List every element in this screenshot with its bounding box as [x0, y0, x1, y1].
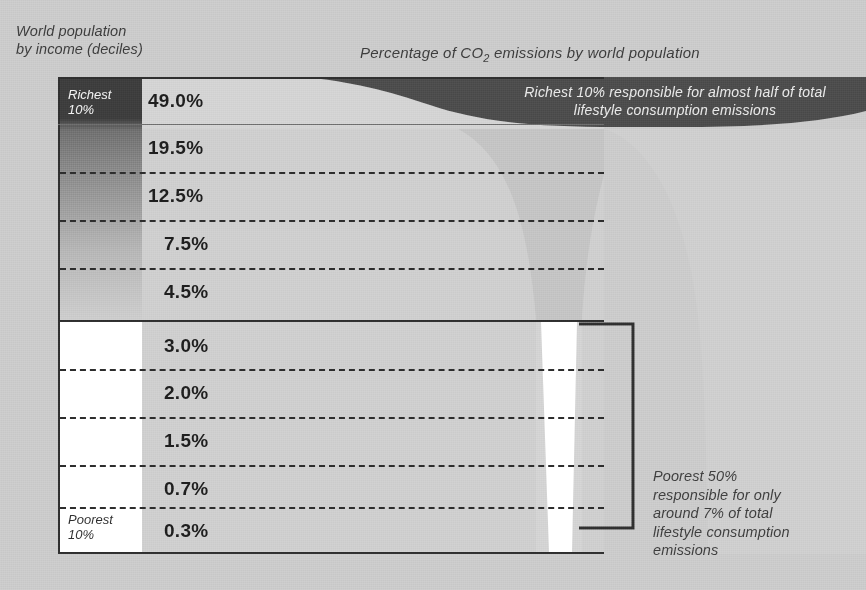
value-label: 7.5% — [164, 233, 209, 255]
value-label: 12.5% — [148, 185, 203, 207]
poorest-bracket — [577, 322, 635, 530]
table-row: 12.5% — [142, 172, 604, 219]
row-separator — [60, 220, 604, 222]
table-row: 2.0% — [142, 369, 604, 416]
value-label: 4.5% — [164, 281, 209, 303]
value-label: 0.3% — [164, 520, 209, 542]
decile-gradient-column: Richest 10% Poorest 10% — [60, 77, 142, 554]
value-label: 3.0% — [164, 335, 209, 357]
value-label: 1.5% — [164, 430, 209, 452]
left-axis-label: World population by income (deciles) — [16, 22, 143, 58]
table-row: 3.0% — [142, 322, 604, 369]
funnel-chart: Richest 10% responsible for almost half … — [58, 77, 866, 554]
value-column: 49.0% 19.5% 12.5% 7.5% 4.5% 3.0% 2.0% 1.… — [142, 77, 604, 554]
value-label: 0.7% — [164, 478, 209, 500]
table-row: 0.7% — [142, 465, 604, 512]
value-label: 19.5% — [148, 137, 203, 159]
richest-decile-tag: Richest 10% — [68, 87, 111, 117]
chart-left-border — [58, 77, 60, 554]
row-separator — [60, 268, 604, 270]
value-label: 2.0% — [164, 382, 209, 404]
row-separator — [60, 417, 604, 419]
banner-annotation: Richest 10% responsible for almost half … — [510, 83, 840, 119]
table-row: 4.5% — [142, 268, 604, 315]
right-axis-label-pre: Percentage of CO — [360, 44, 483, 61]
richest-row-divider — [58, 124, 604, 125]
chart-bottom-border — [58, 552, 604, 554]
right-axis-label: Percentage of CO2 emissions by world pop… — [360, 44, 700, 64]
value-label: 49.0% — [148, 90, 203, 112]
median-divider — [58, 320, 604, 322]
table-row: 0.3% — [142, 507, 604, 554]
row-separator — [60, 172, 604, 174]
table-row: 1.5% — [142, 417, 604, 464]
right-axis-label-post: emissions by world population — [490, 44, 700, 61]
chart-top-border — [58, 77, 604, 79]
poorest-annotation: Poorest 50% responsible for only around … — [653, 467, 833, 560]
table-row: 19.5% — [142, 124, 604, 171]
poorest-decile-tag: Poorest 10% — [68, 512, 113, 542]
row-separator — [60, 507, 604, 509]
row-separator — [60, 465, 604, 467]
row-separator — [60, 369, 604, 371]
table-row: 7.5% — [142, 220, 604, 267]
